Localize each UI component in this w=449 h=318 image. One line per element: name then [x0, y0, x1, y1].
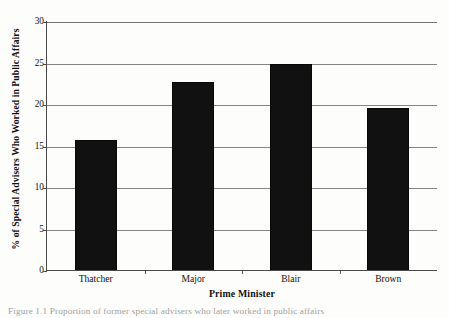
bar-thatcher [75, 140, 117, 271]
bar-blair [270, 64, 312, 272]
gridline-20 [47, 105, 437, 106]
x-axis-category-labels: ThatcherMajorBlairBrown [47, 274, 437, 288]
bar-brown [367, 108, 409, 271]
figure-caption-clipped: Figure 1.1 Proportion of former special … [0, 307, 449, 318]
x-axis-title: Prime Minister [47, 288, 437, 299]
y-axis-tick-labels: 051015202530 [22, 0, 44, 318]
y-tick-30 [43, 22, 47, 23]
y-tick-25 [43, 64, 47, 65]
y-tick-0 [43, 271, 47, 272]
plot-area [47, 22, 437, 271]
x-label-brown: Brown [375, 274, 401, 284]
figure-caption-text: Figure 1.1 Proportion of former special … [8, 307, 444, 316]
y-tick-10 [43, 188, 47, 189]
x-label-major: Major [182, 274, 205, 284]
figure-bar-chart: % of Special Advisers Who Worked in Publ… [0, 0, 449, 318]
y-tick-15 [43, 147, 47, 148]
y-tick-5 [43, 230, 47, 231]
y-tick-20 [43, 105, 47, 106]
bar-major [172, 82, 214, 271]
gridline-25 [47, 64, 437, 65]
gridline-30 [47, 22, 437, 23]
y-axis-title: % of Special Advisers Who Worked in Publ… [10, 28, 21, 249]
x-axis-baseline [47, 270, 437, 271]
x-label-thatcher: Thatcher [79, 274, 113, 284]
x-label-blair: Blair [281, 274, 300, 284]
